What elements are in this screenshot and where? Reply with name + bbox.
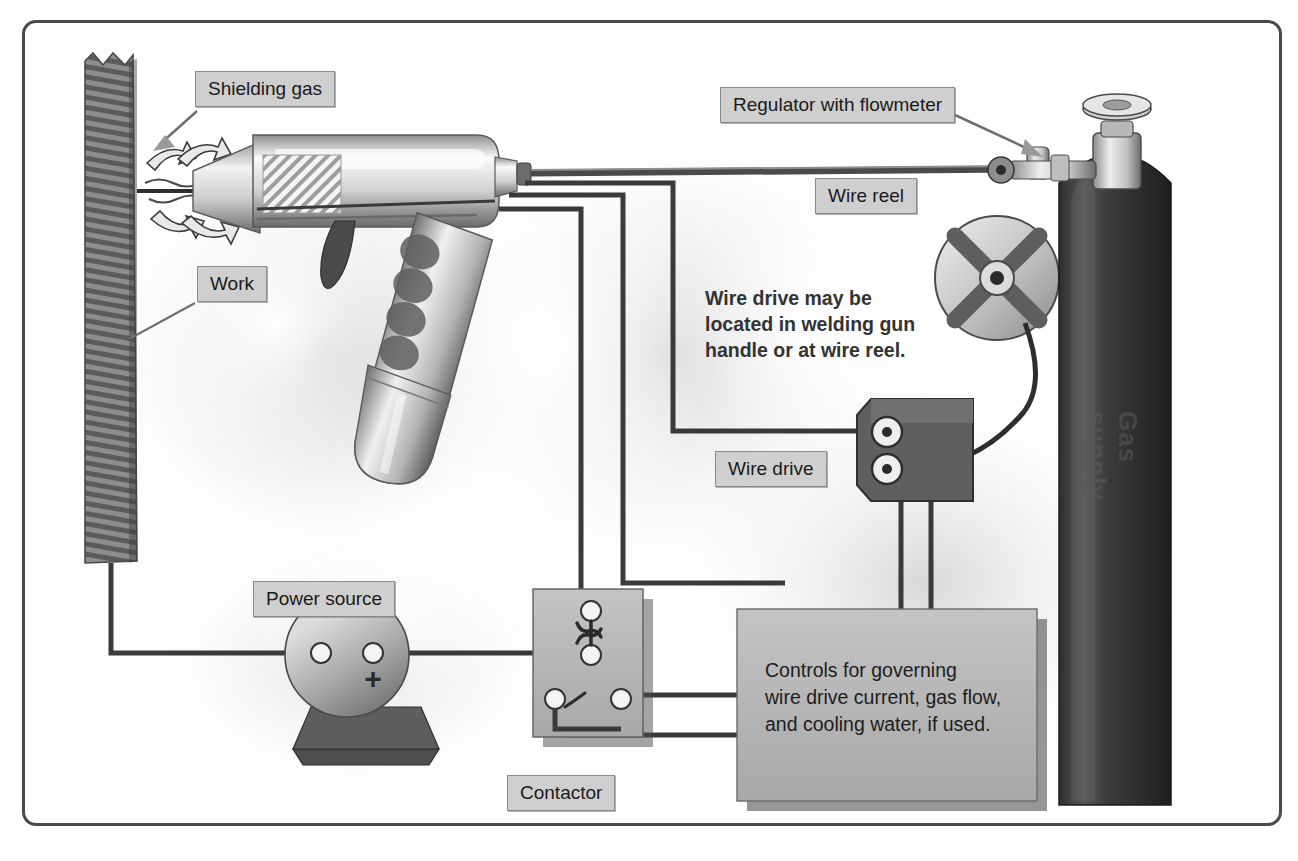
gas-supply-label: Gas supply (1081, 411, 1143, 547)
diagram-frame: + Shielding gas Work Regulator with f (22, 20, 1282, 826)
wire-drive-note: Wire drive may be located in welding gun… (705, 286, 915, 364)
diagram-page: + Shielding gas Work Regulator with f (0, 0, 1298, 861)
controls-box-text: Controls for governing wire drive curren… (765, 657, 1001, 738)
